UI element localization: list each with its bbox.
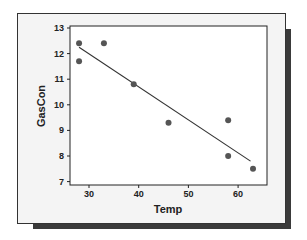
data-point [250, 166, 256, 172]
y-tick-label: 9 [59, 125, 64, 135]
y-tick-label: 7 [59, 177, 64, 187]
data-point [76, 58, 82, 64]
scatter-chart: 78910111213 30405060 Temp GasCon [0, 0, 307, 240]
data-point [101, 40, 107, 46]
x-tick-label: 60 [233, 189, 243, 199]
y-axis-title: GasCon [35, 85, 47, 127]
x-axis: 30405060 [84, 185, 243, 199]
data-point [131, 81, 137, 87]
y-tick-label: 11 [54, 74, 64, 84]
x-axis-title: Temp [154, 203, 183, 215]
y-tick-label: 8 [59, 151, 64, 161]
data-point [225, 117, 231, 123]
y-tick-label: 12 [54, 49, 64, 59]
y-axis: 78910111213 [54, 23, 70, 187]
x-tick-label: 50 [183, 189, 193, 199]
data-point [76, 40, 82, 46]
x-tick-label: 40 [134, 189, 144, 199]
data-point [166, 120, 172, 126]
y-tick-label: 13 [54, 23, 64, 33]
data-point [225, 153, 231, 159]
plot-area [70, 26, 267, 185]
x-tick-label: 30 [84, 189, 94, 199]
y-tick-label: 10 [54, 100, 64, 110]
